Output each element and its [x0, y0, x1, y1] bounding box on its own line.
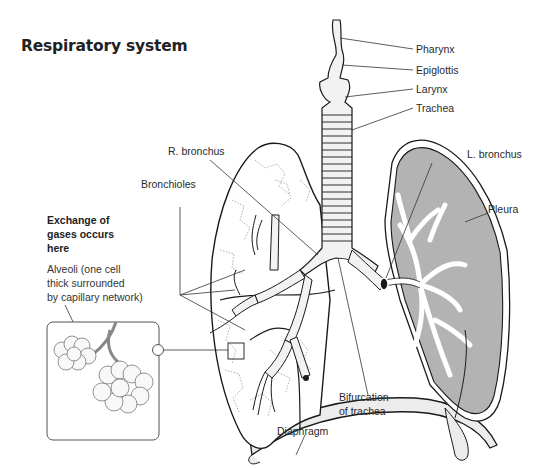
gas-exchange-heading-line: here — [47, 241, 157, 255]
label-pleura: Pleura — [488, 202, 518, 216]
gas-exchange-heading-line: Exchange of — [47, 213, 157, 227]
label-l-bronchus: L. bronchus — [467, 147, 522, 161]
label-r-bronchus: R. bronchus — [168, 144, 225, 158]
alveoli-description-line: Alveoli (one cell — [47, 262, 157, 276]
gas-exchange-heading: Exchange of gases occurs here — [47, 213, 157, 255]
label-larynx: Larynx — [416, 82, 448, 96]
alveoli-description-line: by capillary network) — [47, 290, 157, 304]
label-bifurcation-line1: Bifurcation — [339, 390, 389, 404]
label-trachea: Trachea — [416, 101, 454, 115]
left-lung — [385, 140, 510, 421]
alveoli-description: Alveoli (one cell thick surrounded by ca… — [47, 262, 157, 304]
label-epiglottis: Epiglottis — [416, 63, 459, 77]
gas-exchange-heading-line: gases occurs — [47, 227, 157, 241]
label-diaphragm: Diaphragm — [277, 424, 328, 438]
alveoli-description-line: thick surrounded — [47, 276, 157, 290]
alveoli-inset — [47, 322, 164, 440]
label-pharynx: Pharynx — [416, 42, 455, 56]
label-bifurcation-line2: of trachea — [339, 404, 386, 418]
label-bronchioles: Bronchioles — [141, 177, 196, 191]
diagram-title: Respiratory system — [21, 37, 187, 55]
